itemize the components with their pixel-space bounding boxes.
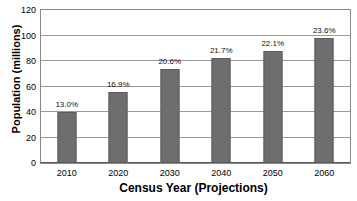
x-axis-tick-label: 2050 <box>263 168 283 178</box>
bar[interactable] <box>263 51 282 163</box>
x-axis-title: Census Year (Projections) <box>36 181 351 195</box>
bar-slot: 23.6% <box>299 10 351 163</box>
bar-value-label: 23.6% <box>313 26 336 35</box>
bar[interactable] <box>57 112 76 163</box>
bar-value-label: 20.6% <box>158 57 181 66</box>
y-axis-tick-label: 120 <box>2 6 36 15</box>
bar-value-label: 16.9% <box>107 80 130 89</box>
y-axis-tick-label: 20 <box>2 134 36 143</box>
y-axis-tick-label: 40 <box>2 108 36 117</box>
bar[interactable] <box>160 69 179 163</box>
y-axis-tick-label: 0 <box>2 159 36 168</box>
y-axis-tick-labels: 020406080100120 <box>0 9 36 164</box>
x-axis-tick-label: 2060 <box>314 168 334 178</box>
bar-slot: 20.6% <box>144 10 196 163</box>
bar-slot: 16.9% <box>93 10 145 163</box>
bar-slot: 21.7% <box>196 10 248 163</box>
x-axis-tick-labels: 201020202030204020502060 <box>41 168 350 180</box>
bar[interactable] <box>109 92 128 163</box>
bar[interactable] <box>212 58 231 163</box>
bar-value-label: 22.1% <box>261 39 284 48</box>
bar-slot: 13.0% <box>41 10 93 163</box>
bar-slot: 22.1% <box>247 10 299 163</box>
y-axis-tick-label: 60 <box>2 83 36 92</box>
bar[interactable] <box>315 38 334 163</box>
bar-chart: Population (millions) 020406080100120 13… <box>0 0 357 201</box>
y-axis-tick-label: 100 <box>2 32 36 41</box>
x-axis-tick-label: 2010 <box>57 168 77 178</box>
x-axis-tick-label: 2020 <box>108 168 128 178</box>
x-axis-tick-label: 2030 <box>160 168 180 178</box>
bar-value-label: 21.7% <box>210 46 233 55</box>
y-axis-tick-label: 80 <box>2 57 36 66</box>
bars-layer: 13.0%16.9%20.6%21.7%22.1%23.6% <box>41 10 350 163</box>
bar-value-label: 13.0% <box>55 100 78 109</box>
x-axis-tick-label: 2040 <box>211 168 231 178</box>
